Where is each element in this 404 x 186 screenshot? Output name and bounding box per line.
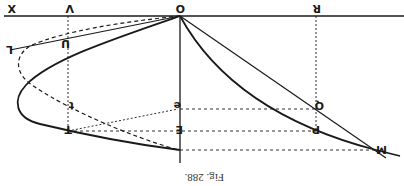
label-p: P — [312, 123, 320, 136]
dashed-t-e — [68, 109, 178, 131]
label-o: O — [176, 2, 185, 15]
label-e-small: e — [174, 99, 181, 112]
line-o-l — [10, 16, 180, 50]
curve-o-p-m — [180, 16, 400, 156]
line-o-m — [180, 16, 386, 158]
curve-loop-dashed — [19, 16, 181, 150]
label-q: Q — [315, 99, 324, 112]
figure-caption: Fig. 288. — [184, 172, 224, 184]
figure-288: X V O R U L t T e E Q P M Fig. 288. — [0, 0, 404, 186]
label-m: M — [376, 143, 387, 156]
label-t: T — [64, 123, 72, 136]
label-e: E — [175, 123, 183, 136]
label-r: R — [312, 2, 321, 15]
label-v: V — [65, 2, 74, 15]
label-x: X — [7, 2, 16, 15]
label-u: U — [61, 37, 70, 50]
label-l: L — [6, 43, 13, 56]
curve-loop-solid — [18, 16, 180, 150]
label-t-small: t — [69, 99, 74, 112]
